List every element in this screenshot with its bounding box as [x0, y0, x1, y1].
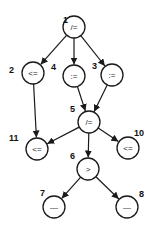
edge-1-to-2: [41, 35, 67, 64]
edge-5-to-10: [98, 128, 118, 142]
node-4: :=4: [51, 62, 85, 87]
node-number-label: 11: [9, 133, 19, 143]
node-number-label: 6: [70, 151, 75, 161]
node-10: <=10: [117, 128, 144, 159]
edge-layer: [34, 35, 119, 199]
node-number-label: 7: [40, 188, 45, 198]
node-layer: /=1<=2:=4:=3/=5<=11<=10>6—7—8: [9, 15, 144, 218]
node-operator: >: [86, 165, 91, 174]
node-6: >6: [70, 151, 99, 180]
edge-6-to-8: [96, 177, 119, 199]
edge-5-to-11: [47, 127, 79, 144]
node-operator: —: [50, 203, 58, 212]
node-3: :=3: [92, 61, 123, 86]
node-number-label: 5: [70, 104, 75, 114]
edge-4-to-5: [77, 87, 85, 112]
node-operator: <=: [28, 69, 38, 78]
node-operator: /=: [86, 118, 93, 127]
edge-2-to-11: [34, 84, 37, 138]
dependency-graph: /=1<=2:=4:=3/=5<=11<=10>6—7—8: [0, 0, 153, 229]
edge-5-to-6: [88, 133, 89, 158]
node-number-label: 8: [139, 189, 144, 199]
node-number-label: 2: [9, 65, 14, 75]
node-operator: :=: [109, 71, 116, 80]
node-number-label: 1: [63, 15, 68, 25]
edge-3-to-5: [94, 85, 107, 112]
node-operator: <=: [123, 144, 133, 153]
node-11: <=11: [9, 133, 48, 160]
node-1: /=1: [63, 15, 85, 38]
node-operator: —: [123, 203, 131, 212]
node-8: —8: [116, 189, 144, 218]
node-number-label: 4: [51, 62, 56, 72]
node-operator: :=: [71, 72, 78, 81]
node-number-label: 10: [134, 128, 144, 138]
node-operator: /=: [71, 23, 78, 32]
node-operator: <=: [32, 145, 42, 154]
node-number-label: 3: [92, 61, 97, 71]
node-7: —7: [40, 188, 65, 218]
node-2: <=2: [9, 62, 44, 84]
edge-6-to-7: [62, 177, 81, 198]
